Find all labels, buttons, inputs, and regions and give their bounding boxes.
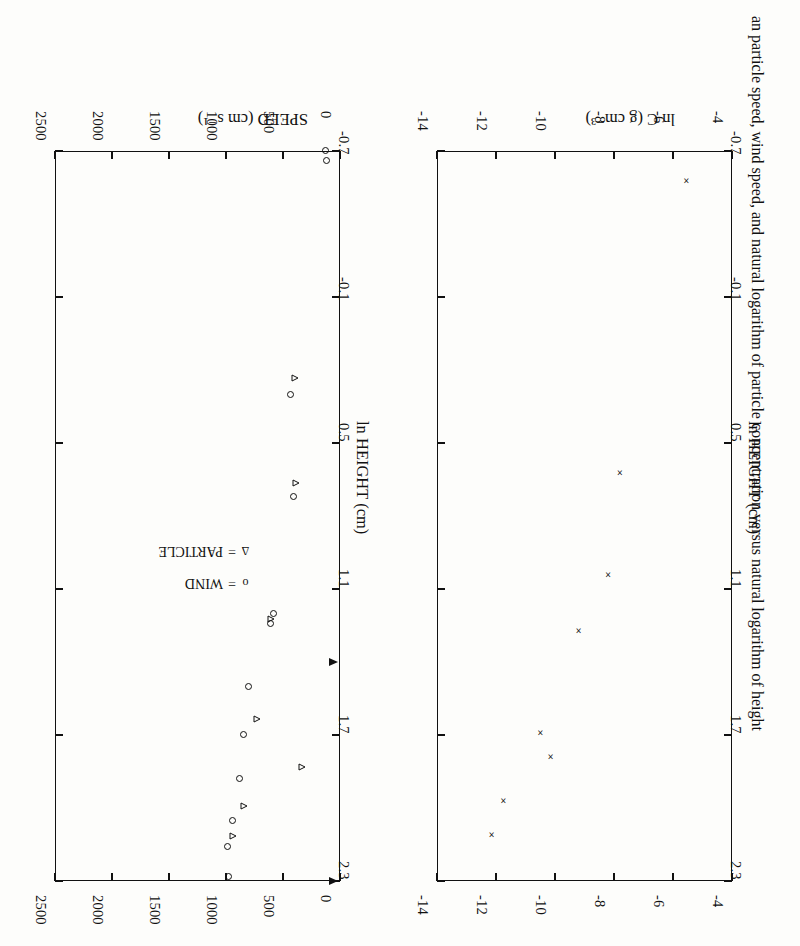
axis-tick-label: 500 — [260, 895, 277, 917]
axis-tick-label: 500 — [260, 111, 277, 133]
axis-tick — [111, 151, 112, 159]
data-point-concentration: × — [488, 831, 495, 838]
axis-tick — [613, 151, 614, 159]
axis-tick-label: 0.5 — [335, 423, 352, 442]
axis-tick — [332, 734, 340, 735]
axis-tick — [724, 588, 732, 589]
data-point-concentration: × — [500, 797, 507, 804]
data-point-concentration: × — [537, 729, 544, 736]
concentration-panel: ln C (g cm⁻³) ln HEIGHT (cm) -4-4-6-6-8-… — [410, 91, 780, 891]
axis-tick — [111, 873, 112, 881]
axis-tick-label: 0.5 — [727, 423, 744, 442]
axis-tick-label: -8 — [591, 895, 608, 907]
axis-tick-label: -14 — [414, 895, 431, 915]
axis-tick-label: 2500 — [32, 895, 49, 925]
axis-arrow-marker — [329, 878, 338, 886]
axis-tick — [55, 296, 63, 297]
axis-tick — [437, 442, 445, 443]
axis-tick-label: 2500 — [32, 111, 49, 141]
data-point-particle — [291, 370, 299, 388]
axis-tick-label: 0 — [317, 111, 334, 118]
axis-tick-label: -12 — [473, 111, 490, 131]
axis-tick — [724, 734, 732, 735]
data-point-particle — [229, 828, 237, 846]
axis-tick — [55, 734, 63, 735]
data-point-concentration: × — [547, 753, 554, 760]
axis-tick-label: 0 — [317, 895, 334, 902]
data-point-particle — [253, 711, 261, 729]
legend-sep-particle: = — [228, 543, 236, 559]
data-point-particle — [298, 759, 306, 777]
axis-tick — [495, 873, 496, 881]
concentration-plot-frame — [437, 151, 732, 881]
axis-tick — [437, 880, 445, 881]
legend-item-particle: Δ = PARTICLE — [158, 543, 250, 559]
axis-tick — [168, 151, 169, 159]
axis-tick — [282, 151, 283, 159]
triangle-icon: Δ — [241, 544, 250, 559]
axis-tick-label: 1.7 — [335, 715, 352, 734]
axis-tick-label: -4 — [709, 895, 726, 907]
axis-tick — [672, 873, 673, 881]
axis-tick-label: 2000 — [89, 111, 106, 141]
data-point-particle — [240, 798, 248, 816]
axis-tick-label: 2.3 — [727, 861, 744, 880]
legend-sep-wind: = — [228, 575, 236, 591]
axis-tick — [724, 442, 732, 443]
data-point-particle — [267, 611, 275, 629]
axis-tick-label: -4 — [709, 111, 726, 123]
axis-tick — [724, 880, 732, 881]
axis-tick-label: 1.1 — [727, 569, 744, 588]
data-point-concentration: × — [605, 571, 612, 578]
data-point-concentration: × — [575, 627, 582, 634]
axis-tick — [613, 873, 614, 881]
axis-tick-label: 1500 — [146, 895, 163, 925]
axis-tick — [436, 151, 437, 159]
axis-tick-label: -0.1 — [727, 277, 744, 301]
axis-tick — [495, 151, 496, 159]
axis-tick-label: -0.7 — [727, 131, 744, 155]
data-point-wind — [225, 873, 232, 880]
axis-tick-label: -6 — [650, 895, 667, 907]
axis-tick-label: -14 — [414, 111, 431, 131]
axis-arrow-marker — [329, 659, 338, 667]
axis-tick — [554, 873, 555, 881]
axis-tick — [672, 151, 673, 159]
axis-tick — [168, 873, 169, 881]
figure-caption-text: an particle speed, wind speed, and natur… — [749, 16, 766, 731]
data-point-particle — [292, 475, 300, 493]
legend-item-wind: o = WIND — [158, 575, 250, 591]
axis-tick — [437, 150, 445, 151]
axis-tick-label: -10 — [532, 111, 549, 131]
circle-icon: o — [241, 576, 250, 591]
data-point-concentration: × — [683, 177, 690, 184]
axis-tick — [437, 588, 445, 589]
legend-label-particle: PARTICLE — [158, 543, 223, 559]
axis-tick — [332, 588, 340, 589]
axis-tick — [54, 151, 55, 159]
data-point-concentration: × — [616, 469, 623, 476]
axis-tick-label: 2000 — [89, 895, 106, 925]
axis-tick — [55, 880, 63, 881]
speed-panel: SPEED (cm s⁻¹) ln HEIGHT (cm) 0050050010… — [30, 91, 400, 891]
axis-tick-label: -8 — [591, 111, 608, 123]
axis-tick — [554, 151, 555, 159]
axis-tick — [55, 588, 63, 589]
axis-tick-label: 1500 — [146, 111, 163, 141]
legend-label-wind: WIND — [185, 575, 223, 591]
speed-yaxis-title: ln HEIGHT (cm) — [352, 421, 372, 534]
axis-tick-label: 1.1 — [335, 569, 352, 588]
axis-tick — [55, 442, 63, 443]
axis-tick-label: 1000 — [203, 111, 220, 141]
figure-caption: an particle speed, wind speed, and natur… — [746, 16, 768, 731]
axis-tick-label: -10 — [532, 895, 549, 915]
axis-tick — [55, 150, 63, 151]
scanned-page: SPEED (cm s⁻¹) ln HEIGHT (cm) 0050050010… — [0, 0, 800, 946]
speed-legend: o = WIND Δ = PARTICLE — [158, 527, 250, 591]
axis-tick-label: 1000 — [203, 895, 220, 925]
axis-tick-label: -0.7 — [335, 131, 352, 155]
axis-tick-label: -0.1 — [335, 277, 352, 301]
axis-tick — [332, 442, 340, 443]
axis-tick — [437, 296, 445, 297]
axis-tick — [282, 873, 283, 881]
